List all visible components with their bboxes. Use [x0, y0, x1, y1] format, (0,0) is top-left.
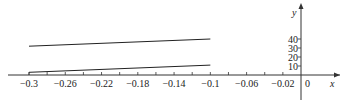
x-axis-label: x: [329, 78, 335, 89]
x-axis-arrow-icon: [334, 73, 340, 78]
x-tick-label: −0.02: [271, 78, 294, 89]
x-tick-label: −0.3: [20, 78, 38, 89]
x-tick-label: −0.06: [235, 78, 258, 89]
y-axis-arrow-icon: [299, 3, 304, 9]
x-tick-label: −0.22: [90, 78, 113, 89]
plot-lines: [29, 39, 210, 75]
series-line-0: [29, 39, 210, 46]
x-tick-label: −0.14: [162, 78, 185, 89]
y-axis-label: y: [291, 7, 297, 18]
x-tick-label: −0.1: [201, 78, 219, 89]
line-chart: −0.3−0.26−0.22−0.18−0.14−0.1−0.06−0.0201…: [0, 0, 350, 107]
x-tick-label: 0: [305, 78, 310, 89]
x-tick-label: −0.26: [54, 78, 77, 89]
y-tick-label: 40: [288, 34, 298, 45]
x-tick-label: −0.18: [126, 78, 149, 89]
tick-labels: −0.3−0.26−0.22−0.18−0.14−0.1−0.06−0.0201…: [20, 7, 335, 89]
series-line-1: [29, 65, 210, 72]
